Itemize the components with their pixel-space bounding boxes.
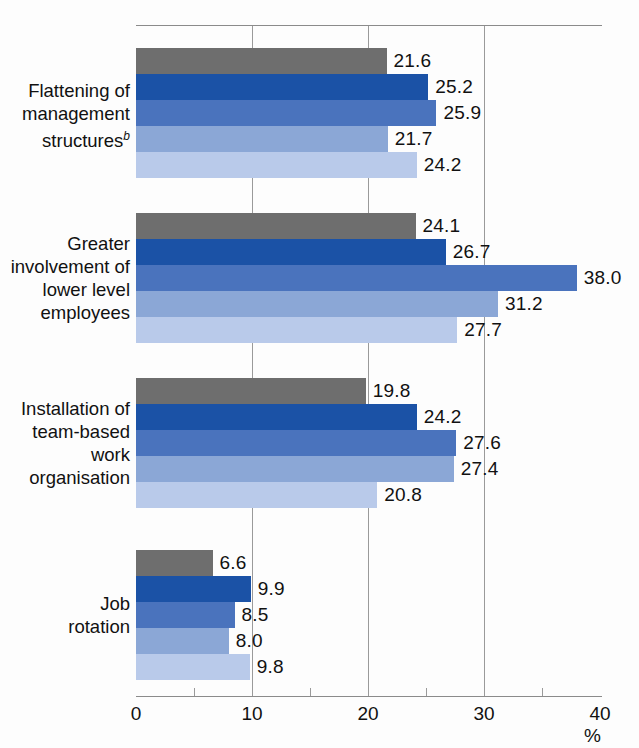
bar-series-4-group-4 xyxy=(136,628,229,654)
bar-row: 20.8 xyxy=(136,482,600,508)
category-label-line: employees xyxy=(0,301,130,324)
category-label-3: Installation ofteam-basedworkorganisatio… xyxy=(0,397,136,489)
x-tick-label-20: 20 xyxy=(357,703,378,725)
bar-series-2-group-2 xyxy=(136,239,446,265)
bar-row: 27.6 xyxy=(136,430,600,456)
bar-value-label: 24.1 xyxy=(416,215,461,237)
category-label-column: Flattening ofmanagementstructuresbGreate… xyxy=(0,26,136,696)
x-tick-label-0: 0 xyxy=(131,703,142,725)
category-footnote-marker: b xyxy=(123,129,130,143)
bar-series-3-group-2 xyxy=(136,265,577,291)
bar-series-1-group-1 xyxy=(136,48,387,74)
bar-value-label: 19.8 xyxy=(366,380,411,402)
bar-chart: Flattening ofmanagementstructuresbGreate… xyxy=(0,0,639,748)
bar-row: 24.2 xyxy=(136,404,600,430)
bar-value-label: 24.2 xyxy=(417,406,462,428)
x-tick-label-10: 10 xyxy=(241,703,262,725)
category-label-line: involvement of xyxy=(0,255,130,278)
bar-series-4-group-3 xyxy=(136,456,454,482)
category-label-line: Installation of xyxy=(0,397,130,420)
bar-series-2-group-3 xyxy=(136,404,417,430)
bar-row: 9.9 xyxy=(136,576,600,602)
category-label-line: organisation xyxy=(0,466,130,489)
bar-row: 8.5 xyxy=(136,602,600,628)
category-label-line: structuresb xyxy=(0,125,130,152)
bar-value-label: 21.7 xyxy=(388,128,433,150)
x-tick-label-40: 40 xyxy=(589,703,610,725)
bar-value-label: 31.2 xyxy=(498,293,543,315)
bar-value-label: 6.6 xyxy=(213,552,247,574)
bar-value-label: 27.7 xyxy=(457,319,502,341)
category-label-line: lower level xyxy=(0,278,130,301)
bar-value-label: 26.7 xyxy=(446,241,491,263)
bar-row: 21.6 xyxy=(136,48,600,74)
plot-area: 21.625.225.921.724.224.126.738.031.227.7… xyxy=(136,26,600,696)
bar-row: 26.7 xyxy=(136,239,600,265)
bar-series-2-group-4 xyxy=(136,576,251,602)
x-minor-tick-35 xyxy=(542,688,543,696)
category-label-2: Greaterinvolvement oflower levelemployee… xyxy=(0,232,136,324)
bar-series-3-group-1 xyxy=(136,100,436,126)
bar-row: 6.6 xyxy=(136,550,600,576)
bar-value-label: 8.0 xyxy=(229,630,263,652)
bar-series-5-group-4 xyxy=(136,654,250,680)
bar-series-1-group-2 xyxy=(136,213,416,239)
bar-value-label: 27.4 xyxy=(454,458,499,480)
category-label-line: management xyxy=(0,102,130,125)
bar-value-label: 21.6 xyxy=(387,50,432,72)
bar-value-label: 20.8 xyxy=(377,484,422,506)
bar-value-label: 8.5 xyxy=(235,604,269,626)
category-label-line: rotation xyxy=(0,615,130,638)
bar-row: 19.8 xyxy=(136,378,600,404)
bar-series-5-group-1 xyxy=(136,152,417,178)
bar-series-4-group-2 xyxy=(136,291,498,317)
category-label-line: Flattening of xyxy=(0,79,130,102)
category-label-line: team-based xyxy=(0,420,130,443)
x-axis-unit-label: % xyxy=(584,725,601,747)
bar-group: 24.126.738.031.227.7 xyxy=(136,213,600,343)
bar-series-3-group-3 xyxy=(136,430,456,456)
bar-group: 21.625.225.921.724.2 xyxy=(136,48,600,178)
bar-row: 21.7 xyxy=(136,126,600,152)
bar-value-label: 9.9 xyxy=(251,578,285,600)
bar-row: 27.7 xyxy=(136,317,600,343)
bar-row: 27.4 xyxy=(136,456,600,482)
category-label-line: Job xyxy=(0,592,130,615)
bar-series-5-group-3 xyxy=(136,482,377,508)
x-axis-line xyxy=(136,696,602,697)
bar-row: 24.1 xyxy=(136,213,600,239)
bar-value-label: 27.6 xyxy=(456,432,501,454)
category-label-line: work xyxy=(0,443,130,466)
bar-series-5-group-2 xyxy=(136,317,457,343)
bar-row: 25.9 xyxy=(136,100,600,126)
bar-value-label: 24.2 xyxy=(417,154,462,176)
bar-group: 6.69.98.58.09.8 xyxy=(136,550,600,680)
bar-value-label: 38.0 xyxy=(577,267,622,289)
category-label-line: Greater xyxy=(0,232,130,255)
bar-value-label: 25.2 xyxy=(428,76,473,98)
x-minor-tick-15 xyxy=(310,688,311,696)
bar-series-2-group-1 xyxy=(136,74,428,100)
bar-series-3-group-4 xyxy=(136,602,235,628)
bar-row: 38.0 xyxy=(136,265,600,291)
x-minor-tick-5 xyxy=(194,688,195,696)
x-tick-label-30: 30 xyxy=(473,703,494,725)
x-minor-tick-25 xyxy=(426,688,427,696)
category-label-4: Jobrotation xyxy=(0,592,136,638)
bar-group: 19.824.227.627.420.8 xyxy=(136,378,600,508)
bar-value-label: 9.8 xyxy=(250,656,284,678)
category-label-1: Flattening ofmanagementstructuresb xyxy=(0,79,136,152)
bar-series-4-group-1 xyxy=(136,126,388,152)
bar-row: 25.2 xyxy=(136,74,600,100)
bar-row: 8.0 xyxy=(136,628,600,654)
bar-row: 24.2 xyxy=(136,152,600,178)
bar-series-1-group-3 xyxy=(136,378,366,404)
bar-row: 31.2 xyxy=(136,291,600,317)
bar-value-label: 25.9 xyxy=(436,102,481,124)
bar-row: 9.8 xyxy=(136,654,600,680)
bar-series-1-group-4 xyxy=(136,550,213,576)
